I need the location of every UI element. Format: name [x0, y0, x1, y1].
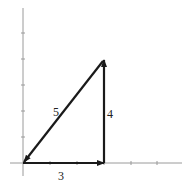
- label-horizontal: 3: [58, 169, 64, 183]
- vector-triangle-diagram: 5 4 3: [0, 0, 183, 186]
- vectors: [23, 60, 104, 163]
- label-hypotenuse: 5: [53, 105, 59, 119]
- axes: [10, 8, 182, 176]
- vector-hypotenuse: [24, 61, 103, 162]
- label-vertical: 4: [107, 107, 113, 121]
